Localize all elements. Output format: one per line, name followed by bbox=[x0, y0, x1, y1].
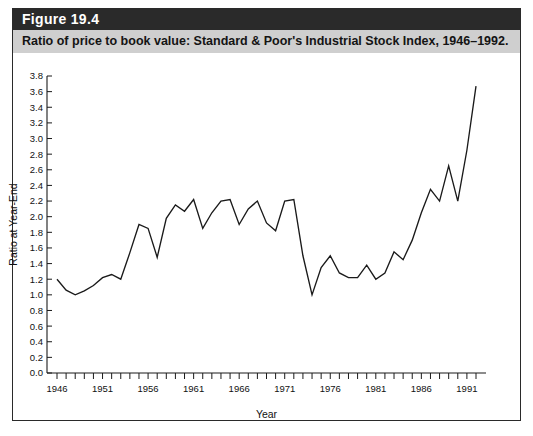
figure-caption-text: Ratio of price to book value: Standard &… bbox=[22, 34, 508, 48]
x-tick-label: 1986 bbox=[411, 383, 432, 394]
y-axis-tick-labels: 0.00.20.40.60.81.01.21.41.61.82.02.22.42… bbox=[30, 70, 43, 378]
y-tick-label: 2.2 bbox=[30, 195, 43, 206]
y-tick-label: 0.4 bbox=[30, 336, 43, 347]
line-chart-svg: 0.00.20.40.60.81.01.21.41.61.82.02.22.42… bbox=[0, 53, 533, 421]
data-series-line bbox=[57, 86, 476, 295]
y-axis-title: Ratio at Year-End bbox=[7, 183, 19, 265]
x-tick-label: 1951 bbox=[92, 383, 113, 394]
y-tick-label: 1.0 bbox=[30, 289, 43, 300]
y-tick-label: 3.0 bbox=[30, 133, 43, 144]
x-axis-title: Year bbox=[256, 408, 278, 420]
y-tick-label: 3.8 bbox=[30, 70, 43, 81]
y-tick-label: 0.8 bbox=[30, 305, 43, 316]
chart-plot-area: 0.00.20.40.60.81.01.21.41.61.82.02.22.42… bbox=[0, 53, 533, 421]
y-tick-label: 2.8 bbox=[30, 149, 43, 160]
x-tick-label: 1956 bbox=[138, 383, 159, 394]
y-axis-tick-marks bbox=[47, 76, 52, 373]
x-tick-label: 1961 bbox=[183, 383, 204, 394]
x-tick-label: 1946 bbox=[46, 383, 67, 394]
x-tick-label: 1966 bbox=[229, 383, 250, 394]
figure-container: Figure 19.4 Ratio of price to book value… bbox=[0, 0, 533, 436]
x-tick-label: 1976 bbox=[320, 383, 341, 394]
y-tick-label: 2.0 bbox=[30, 211, 43, 222]
y-tick-label: 0.0 bbox=[30, 367, 43, 378]
x-tick-label: 1981 bbox=[365, 383, 386, 394]
y-tick-label: 1.6 bbox=[30, 242, 43, 253]
x-tick-label: 1991 bbox=[456, 383, 477, 394]
y-tick-label: 2.4 bbox=[30, 180, 43, 191]
x-axis-tick-labels: 1946195119561961196619711976198119861991 bbox=[46, 383, 477, 394]
y-tick-label: 1.4 bbox=[30, 258, 43, 269]
y-tick-label: 1.8 bbox=[30, 227, 43, 238]
y-tick-label: 0.6 bbox=[30, 321, 43, 332]
x-axis-tick-marks bbox=[57, 373, 476, 379]
y-tick-label: 1.2 bbox=[30, 274, 43, 285]
y-tick-label: 3.4 bbox=[30, 102, 43, 113]
y-tick-label: 3.6 bbox=[30, 86, 43, 97]
x-tick-label: 1971 bbox=[274, 383, 295, 394]
y-tick-label: 3.2 bbox=[30, 117, 43, 128]
y-tick-label: 0.2 bbox=[30, 352, 43, 363]
figure-number-band: Figure 19.4 bbox=[12, 8, 521, 30]
y-tick-label: 2.6 bbox=[30, 164, 43, 175]
figure-number-label: Figure 19.4 bbox=[22, 11, 99, 27]
figure-caption-band: Ratio of price to book value: Standard &… bbox=[12, 30, 521, 53]
